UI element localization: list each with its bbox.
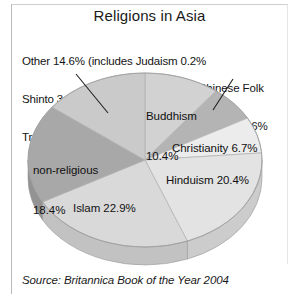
slice-label-christianity: Christianity 6.7% (172, 142, 257, 155)
source-note: Source: Britannica Book of the Year 2004 (22, 274, 229, 286)
chart-figure: Religions in Asia Other 14.6% (includes … (0, 0, 291, 296)
slice-label-buddhism-line-1: Buddhism (146, 110, 197, 123)
slice-label-hinduism: Hinduism 20.4% (166, 174, 249, 187)
slice-label-islam: Islam 22.9% (73, 202, 136, 215)
slice-label-non-religious-line-1: non-religious (33, 164, 98, 177)
slice-label-non-religious: non-religious 18.4% (33, 138, 98, 244)
